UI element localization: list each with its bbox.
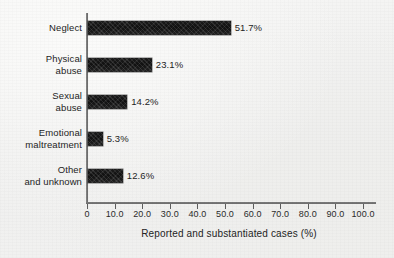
x-axis-tick-label: 0 bbox=[84, 209, 89, 220]
bar-row: Emotional maltreatment5.3% bbox=[0, 126, 394, 163]
bar-value-label: 23.1% bbox=[156, 59, 183, 71]
bar bbox=[88, 21, 231, 35]
category-label: Sexual abuse bbox=[0, 89, 82, 113]
bar-value-label: 5.3% bbox=[107, 133, 129, 145]
category-label: Neglect bbox=[0, 15, 82, 34]
x-axis-tick-label: 20.0 bbox=[133, 209, 151, 220]
x-axis-tick-label: 50.0 bbox=[216, 209, 234, 220]
bar-row: Sexual abuse14.2% bbox=[0, 89, 394, 126]
chart-page: 010.020.030.040.050.060.070.080.090.0100… bbox=[0, 0, 394, 258]
x-axis-tick-label: 70.0 bbox=[271, 209, 289, 220]
x-axis-title: Reported and substantiated cases (%) bbox=[0, 228, 394, 240]
bar-row: Other and unknown12.6% bbox=[0, 163, 394, 200]
bar bbox=[88, 58, 152, 72]
category-label: Other and unknown bbox=[0, 163, 82, 187]
bar-row: Physical abuse23.1% bbox=[0, 52, 394, 89]
x-axis-tick-label: 80.0 bbox=[299, 209, 317, 220]
category-label: Physical abuse bbox=[0, 52, 82, 76]
x-axis-tick-label: 30.0 bbox=[161, 209, 179, 220]
bar bbox=[88, 169, 123, 183]
bar bbox=[88, 132, 103, 146]
x-axis-tick-label: 100.0 bbox=[351, 209, 374, 220]
x-axis-tick-label: 90.0 bbox=[326, 209, 344, 220]
bar-value-label: 12.6% bbox=[127, 170, 154, 182]
bar bbox=[88, 95, 127, 109]
x-axis-tick-label: 60.0 bbox=[244, 209, 262, 220]
category-label: Emotional maltreatment bbox=[0, 126, 82, 150]
bar-chart: 010.020.030.040.050.060.070.080.090.0100… bbox=[0, 0, 394, 258]
x-axis-line bbox=[86, 202, 376, 204]
bar-row: Neglect51.7% bbox=[0, 15, 394, 52]
x-axis-tick-label: 40.0 bbox=[188, 209, 206, 220]
bar-value-label: 14.2% bbox=[131, 96, 158, 108]
bar-value-label: 51.7% bbox=[235, 22, 262, 34]
x-axis-tick-label: 10.0 bbox=[106, 209, 124, 220]
